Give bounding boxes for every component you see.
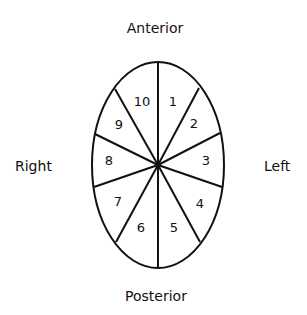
center-point	[156, 163, 161, 168]
segmented-ellipse-diagram: 12345678910	[0, 0, 307, 315]
segment-label-4: 4	[196, 196, 204, 211]
segment-label-10: 10	[134, 94, 151, 109]
segment-label-1: 1	[169, 94, 177, 109]
segment-label-5: 5	[170, 220, 178, 235]
segment-label-3: 3	[202, 153, 210, 168]
segment-label-2: 2	[190, 116, 198, 131]
segment-label-7: 7	[114, 194, 122, 209]
segment-label-6: 6	[137, 220, 145, 235]
segment-label-9: 9	[115, 117, 123, 132]
segment-label-8: 8	[105, 153, 113, 168]
